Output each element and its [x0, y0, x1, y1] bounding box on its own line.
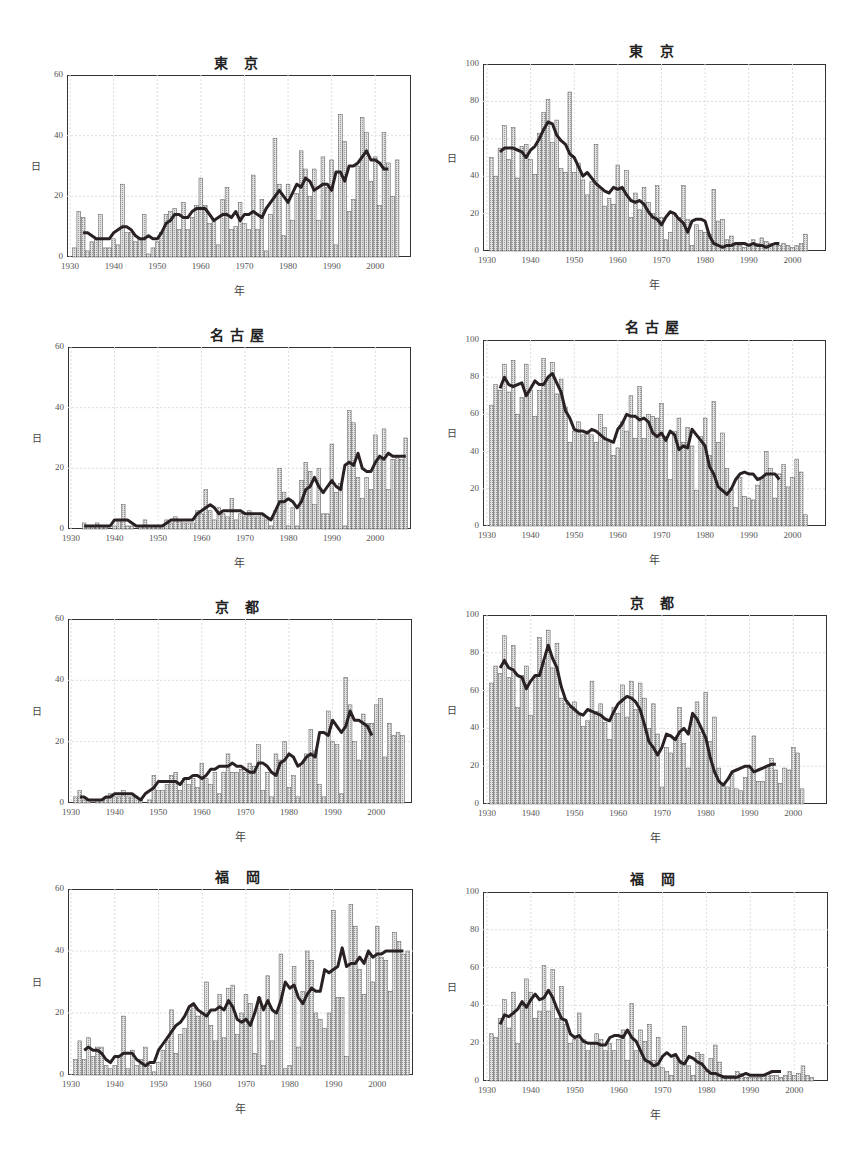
chart-svg [0, 0, 868, 1163]
y-tick-label: 20 [451, 1037, 479, 1047]
y-tick-label: 100 [451, 886, 479, 896]
x-tick-label: 1990 [741, 1085, 759, 1095]
bar [669, 1075, 673, 1081]
bar [805, 1075, 809, 1081]
bar [489, 1034, 493, 1081]
bar [608, 1043, 612, 1081]
bar [560, 987, 564, 1082]
bar [538, 1011, 542, 1081]
bar [573, 1039, 577, 1081]
x-tick-label: 1940 [522, 1085, 540, 1095]
bar [525, 979, 529, 1081]
bar [555, 1019, 559, 1081]
bar [810, 1077, 814, 1081]
bar [533, 1019, 537, 1081]
bar [779, 1077, 783, 1081]
bar [683, 1026, 687, 1081]
bar [604, 1051, 608, 1081]
bar [503, 1000, 507, 1081]
bar [674, 1056, 678, 1081]
x-tick-label: 1980 [697, 1085, 715, 1095]
bar [691, 1075, 695, 1081]
x-tick-label: 1930 [478, 1085, 496, 1095]
bar [797, 1073, 801, 1081]
bar [516, 1043, 520, 1081]
bar [744, 1077, 748, 1081]
x-tick-label: 1960 [610, 1085, 628, 1095]
bar [577, 1013, 581, 1081]
x-tick-label: 2000 [785, 1085, 803, 1095]
bar [542, 966, 546, 1081]
bar [626, 1060, 630, 1081]
bar [784, 1075, 788, 1081]
bar [586, 1051, 590, 1081]
bar [630, 1004, 634, 1081]
bar [494, 1038, 498, 1081]
bar [757, 1077, 761, 1081]
y-tick-label: 40 [451, 999, 479, 1009]
x-tick-label: 1950 [566, 1085, 584, 1095]
bar [713, 1045, 717, 1081]
bar [612, 1051, 616, 1081]
bar [705, 1072, 709, 1081]
bar [564, 1024, 568, 1081]
bar [748, 1077, 752, 1081]
bar [520, 1005, 524, 1081]
bar [551, 969, 555, 1081]
bar [647, 1024, 651, 1081]
y-tick-label: 80 [451, 924, 479, 934]
bar [788, 1072, 792, 1081]
bar [498, 1019, 502, 1081]
bar [753, 1077, 757, 1081]
bar [792, 1075, 796, 1081]
bar [568, 1043, 572, 1081]
bar [590, 1043, 594, 1081]
bar [634, 1051, 638, 1081]
y-tick-label: 0 [451, 1075, 479, 1085]
bar [582, 1039, 586, 1081]
bar [696, 1053, 700, 1081]
bar [718, 1062, 722, 1081]
bar [770, 1075, 774, 1081]
bar [595, 1034, 599, 1081]
bar [529, 992, 533, 1081]
bar [801, 1066, 805, 1081]
bar [687, 1066, 691, 1081]
bar [661, 1068, 665, 1081]
y-tick-label: 60 [451, 962, 479, 972]
bar [547, 1011, 551, 1081]
bar [511, 992, 515, 1081]
bar [775, 1075, 779, 1081]
bar [507, 1028, 511, 1081]
bar [665, 1072, 669, 1081]
bar [617, 1039, 621, 1081]
x-tick-label: 1970 [654, 1085, 672, 1095]
bar [709, 1058, 713, 1081]
